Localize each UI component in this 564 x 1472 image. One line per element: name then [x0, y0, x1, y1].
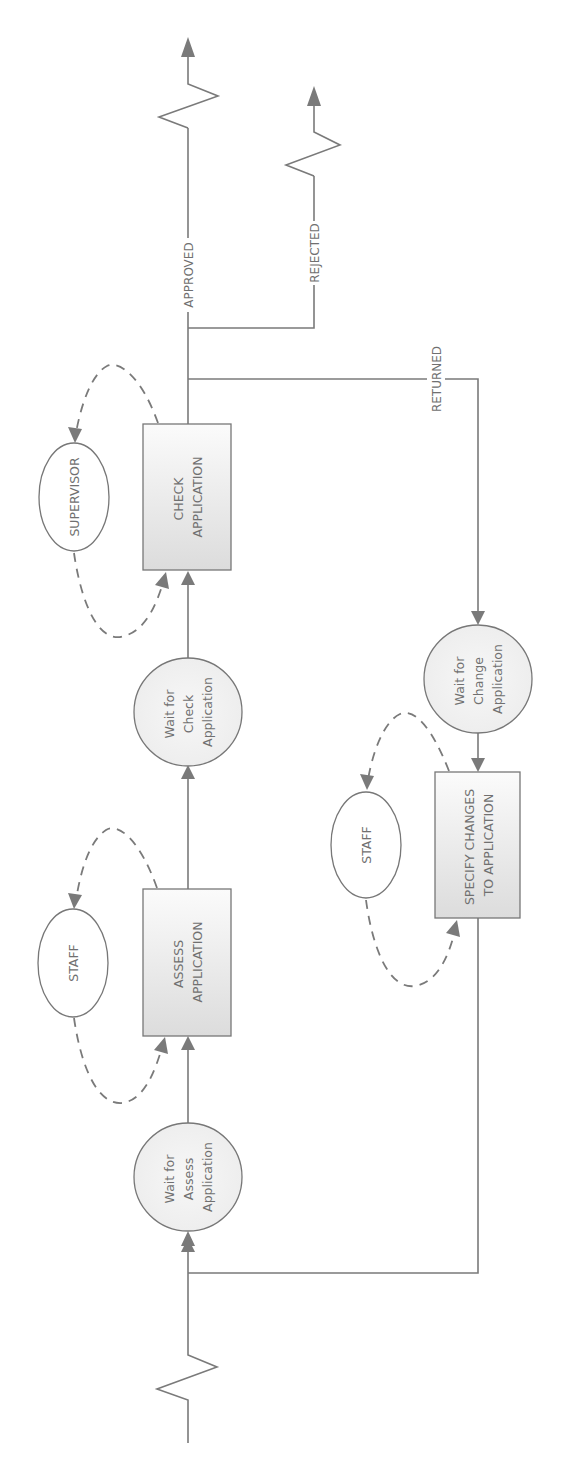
resource-label: SUPERVISOR: [67, 457, 82, 537]
task-check-application[interactable]: CHECK APPLICATION: [143, 424, 231, 570]
condition-label: Application: [490, 644, 505, 714]
task-label: TO APPLICATION: [481, 794, 496, 898]
task-label: SPECIFY CHANGES: [462, 789, 477, 905]
incoming-flow: [157, 1231, 217, 1443]
condition-label: Check: [181, 694, 196, 733]
zigzag-break-icon: [159, 55, 218, 128]
task-label: APPLICATION: [190, 456, 205, 537]
arrowhead-icon: [307, 86, 321, 106]
arrowhead-icon: [181, 1036, 195, 1050]
condition-label: Wait for: [162, 1154, 177, 1204]
arrowhead-icon: [68, 893, 82, 909]
condition-label: Wait for: [452, 656, 467, 706]
condition-label: Application: [200, 677, 215, 747]
task-label: CHECK: [171, 477, 186, 521]
arrowhead-icon: [154, 1037, 168, 1054]
resource-staff-assess[interactable]: STAFF: [38, 909, 108, 1017]
task-box: [143, 424, 231, 570]
resource-label: STAFF: [66, 944, 81, 982]
condition-wait-for-change[interactable]: Wait for Change Application: [424, 625, 532, 733]
outcome-label-returned: RETURNED: [430, 346, 444, 412]
resource-supervisor-check[interactable]: SUPERVISOR: [39, 443, 109, 551]
zigzag-break-icon: [157, 1240, 217, 1443]
task-label: ASSESS: [171, 940, 186, 988]
arrowhead-icon: [155, 572, 169, 589]
rejected-line: [188, 285, 314, 328]
condition-label: Wait for: [162, 689, 177, 739]
condition-wait-for-assess[interactable]: Wait for Assess Application: [134, 1123, 242, 1231]
arrowhead-icon: [181, 765, 195, 779]
zigzag-break-icon: [286, 104, 340, 176]
arrowhead-icon: [181, 571, 195, 585]
arrowhead-icon: [471, 611, 485, 625]
workflow-diagram: Wait for Assess Application Wait for Che…: [0, 0, 564, 1472]
arrowhead-icon: [446, 920, 460, 937]
svg-text:Wait for Change Ap: Wait for Change Application: [452, 644, 505, 714]
outcome-label-approved: APPROVED: [182, 242, 196, 307]
arrowhead-icon: [471, 758, 485, 772]
task-assess-application[interactable]: ASSESS APPLICATION: [143, 889, 231, 1036]
condition-wait-for-check[interactable]: Wait for Check Application: [134, 658, 242, 766]
returned-line-right: [445, 379, 478, 615]
arrowhead-icon: [68, 427, 82, 443]
resource-staff-specify[interactable]: STAFF: [331, 792, 401, 898]
arrowhead-icon: [360, 774, 374, 790]
condition-label: Assess: [181, 1158, 196, 1200]
task-box: [143, 889, 231, 1036]
task-label: APPLICATION: [190, 921, 205, 1002]
condition-label: Application: [200, 1142, 215, 1212]
resource-label: STAFF: [359, 826, 374, 864]
resource-allocation-loop: [368, 713, 449, 780]
task-specify-changes[interactable]: SPECIFY CHANGES TO APPLICATION: [435, 772, 520, 918]
arrowhead-icon: [181, 37, 195, 57]
resource-allocation-loop: [76, 365, 158, 433]
outcome-label-rejected: REJECTED: [308, 223, 322, 283]
condition-label: Change: [471, 657, 486, 705]
task-box: [435, 772, 520, 918]
